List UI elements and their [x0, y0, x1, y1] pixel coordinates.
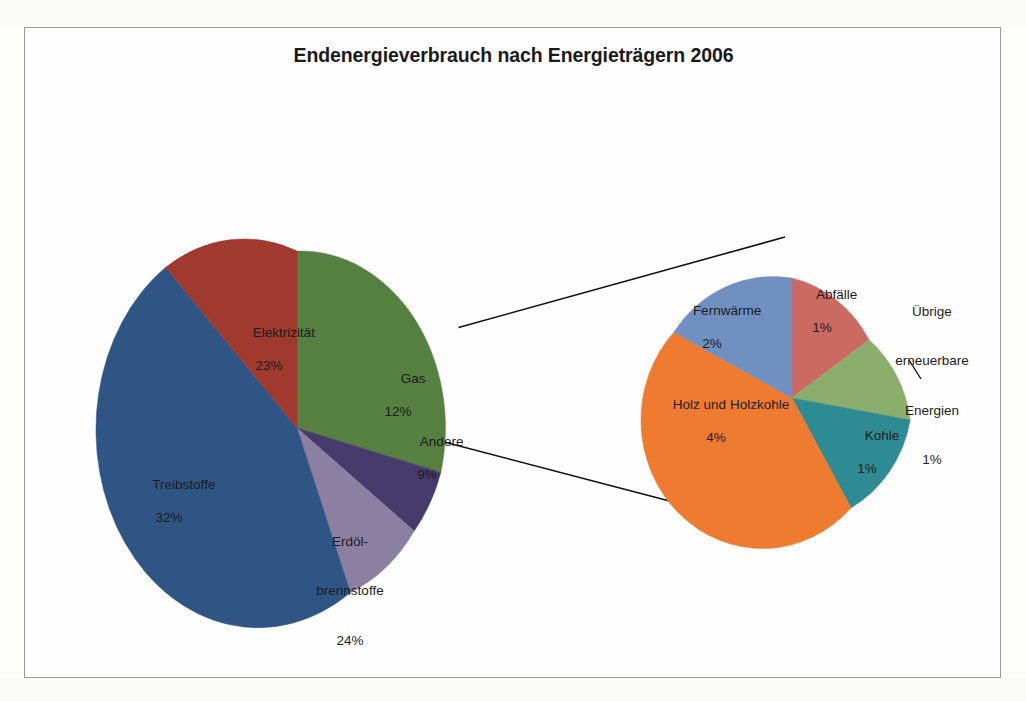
figure-frame: Endenergieverbrauch nach Energieträgern … [24, 27, 1001, 678]
uebrige-callout-leader [909, 360, 921, 379]
pie-charts-svg [25, 28, 1002, 679]
page-canvas: Endenergieverbrauch nach Energieträgern … [0, 0, 1026, 701]
plot-area: Elektrizität 23% Gas 12% Andere 9% Treib… [25, 28, 1002, 679]
detail-pie [641, 276, 910, 548]
scan-margin-top [0, 0, 1026, 27]
scan-margin-bottom [0, 678, 1026, 701]
main-pie [96, 239, 446, 628]
